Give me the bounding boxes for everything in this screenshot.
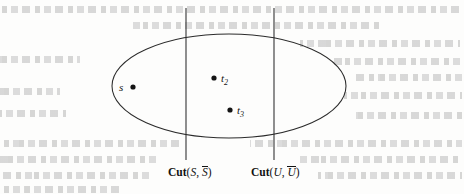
figure-canvas xyxy=(0,0,464,194)
vertex-label-s: s xyxy=(119,82,123,93)
cut-lines-group xyxy=(186,8,274,160)
cut-u-caption: Cut(U, U) xyxy=(251,166,300,179)
cut-s-caption: Cut(S, S) xyxy=(168,166,211,179)
vertex-dots-group xyxy=(130,75,232,112)
vertex-label-t2: t2 xyxy=(221,73,228,87)
figure-page: st2t3 Cut(S, S)Cut(U, U) xyxy=(0,0,464,194)
vertex-dot-t3 xyxy=(227,107,232,112)
vertex-label-t3: t3 xyxy=(237,105,244,119)
vertex-dot-s xyxy=(130,84,135,89)
vertex-dot-t2 xyxy=(211,75,216,80)
vertex-set-ellipse xyxy=(112,34,346,138)
